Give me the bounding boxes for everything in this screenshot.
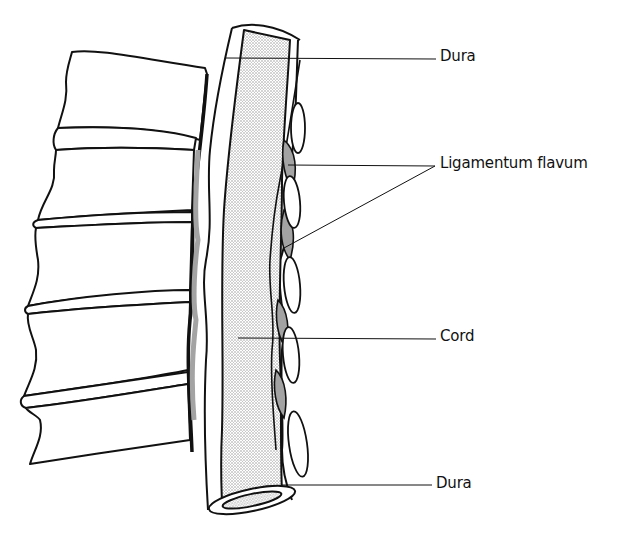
- spine-diagram: [0, 0, 627, 541]
- leader-ligamentum-1: [288, 165, 435, 166]
- vertebral-column: [21, 51, 207, 464]
- spinal-cord: [221, 30, 290, 506]
- label-dura-top: Dura: [440, 47, 476, 65]
- label-dura-bottom: Dura: [436, 474, 472, 492]
- label-ligamentum-flavum: Ligamentum flavum: [440, 154, 588, 172]
- label-cord: Cord: [440, 327, 474, 345]
- vertebra-2: [38, 148, 194, 220]
- leader-ligamentum-2: [284, 166, 435, 248]
